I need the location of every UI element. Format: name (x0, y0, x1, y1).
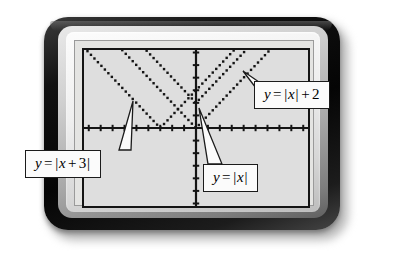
callout-var: x (59, 155, 66, 171)
callout-operator: + (66, 155, 79, 171)
callout-equals: = (220, 169, 233, 185)
callout-lhs: y (264, 86, 271, 102)
callout-var: x (288, 86, 295, 102)
callout-equals: = (271, 86, 284, 102)
callout-abs-close: | (87, 155, 91, 171)
calculator-screen (82, 48, 310, 208)
callout-constant: 2 (312, 86, 320, 102)
callout-lhs: y (35, 155, 42, 171)
callout-constant: 3 (79, 155, 87, 171)
calculator-graph-figure: y=|x|+2 y=|x+3| y=|x| (0, 0, 395, 263)
callout-var: x (237, 169, 244, 185)
callout-equals: = (42, 155, 55, 171)
callout-label-abs-plus-2: y=|x|+2 (254, 81, 330, 109)
callout-label-abs-x-plus-3: y=|x+3| (25, 150, 101, 178)
callout-lhs: y (213, 169, 220, 185)
callout-abs-close: | (244, 169, 248, 185)
callout-label-abs-x: y=|x| (203, 164, 258, 192)
graph-plot-area (84, 50, 308, 206)
callout-operator: + (299, 86, 312, 102)
